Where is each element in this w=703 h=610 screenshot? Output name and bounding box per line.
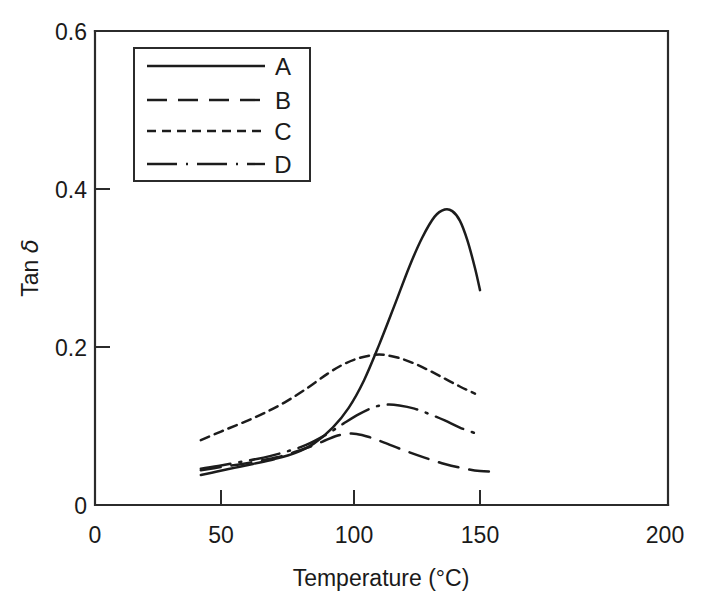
y-tick-label-0.2: 0.2 — [55, 335, 87, 361]
y-tick-label-0: 0 — [74, 493, 87, 519]
x-tick-label-100: 100 — [335, 522, 373, 548]
x-tick-label-200: 200 — [646, 522, 684, 548]
legend-label-d: D — [274, 151, 291, 178]
legend-label-c: C — [274, 118, 291, 145]
x-axis-label: Temperature (°C) — [293, 565, 470, 591]
x-tick-label-0: 0 — [89, 522, 102, 548]
legend-label-a: A — [275, 53, 291, 80]
y-axis-label-group: Tan δ — [17, 239, 43, 297]
x-tick-label-50: 50 — [208, 522, 234, 548]
x-tick-label-150: 150 — [461, 522, 499, 548]
chart-background — [0, 0, 703, 610]
y-axis-label: Tan δ — [17, 239, 43, 297]
y-axis-label-prefix: Tan — [17, 253, 43, 296]
y-axis-label-symbol: δ — [17, 239, 43, 253]
chart-svg: 0.6 0.4 0.2 0 0 50 100 150 200 Temperatu… — [0, 0, 703, 610]
y-tick-label-0.4: 0.4 — [55, 177, 87, 203]
y-tick-label-0.6: 0.6 — [55, 19, 87, 45]
legend-label-b: B — [275, 87, 291, 114]
chart-figure: 0.6 0.4 0.2 0 0 50 100 150 200 Temperatu… — [0, 0, 703, 610]
